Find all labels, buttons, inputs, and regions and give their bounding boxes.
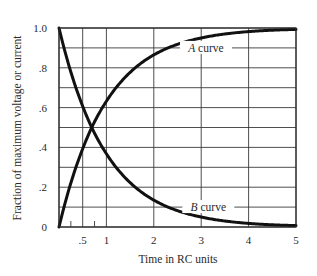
y-tick-label: .4 <box>39 141 48 153</box>
y-tick-label: 0 <box>42 221 48 233</box>
y-tick-label: .8 <box>39 62 48 74</box>
y-tick-label: .6 <box>39 102 48 114</box>
x-tick-label: 2 <box>151 234 157 246</box>
x-tick-label: 1 <box>104 234 110 246</box>
y-tick-label: .2 <box>39 181 47 193</box>
y-tick-label: 1.0 <box>33 22 47 34</box>
gridlines <box>59 28 296 227</box>
x-tick-label: 3 <box>198 234 204 246</box>
y-axis-ticks: 0.2.4.6.81.0 <box>33 22 47 233</box>
x-tick-label: 4 <box>246 234 252 246</box>
a-curve-label: A curve <box>187 42 223 54</box>
rc-charge-discharge-chart: A curveB curve .512345 0.2.4.6.81.0 Time… <box>0 0 317 276</box>
b-curve-line <box>59 28 296 226</box>
chart-canvas: A curveB curve .512345 0.2.4.6.81.0 Time… <box>0 0 317 276</box>
a-curve-line <box>59 29 296 227</box>
x-tick-label: 5 <box>293 234 299 246</box>
y-axis-title: Fraction of maximum voltage or current <box>11 35 24 221</box>
x-tick-label: .5 <box>79 234 88 246</box>
b-curve-label: B curve <box>191 201 226 213</box>
x-axis-title: Time in RC units <box>138 253 218 265</box>
